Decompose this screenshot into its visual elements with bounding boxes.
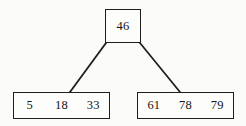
right-leaf-key-1: 78 [170,99,202,112]
left-leaf-node: 5 18 33 [13,92,110,119]
root-node-key-0: 46 [106,20,140,33]
right-leaf-node: 61 78 79 [137,92,234,119]
right-leaf-key-0: 61 [138,99,170,112]
right-leaf-key-2: 79 [201,99,233,112]
left-leaf-key-1: 18 [46,99,78,112]
tree-diagram: 46 5 18 33 61 78 79 [0,0,246,126]
edge-root-to-right-leaf [140,43,180,92]
left-leaf-key-2: 33 [77,99,109,112]
edge-root-to-left-leaf [70,43,106,92]
left-leaf-key-0: 5 [14,99,46,112]
root-node: 46 [105,9,141,43]
